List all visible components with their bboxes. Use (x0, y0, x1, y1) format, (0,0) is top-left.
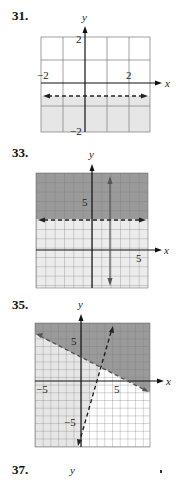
problem-33-number: 33. (12, 145, 28, 161)
graph-35-tick-x-right: 5 (114, 383, 120, 395)
graph-35-tick-y-top: 5 (71, 335, 77, 347)
problem-37-number: 37. (12, 462, 28, 478)
graph-31-y-label: y (81, 11, 87, 23)
graph-37-mark (160, 470, 162, 473)
graph-33-tick-x: 5 (136, 252, 142, 264)
graph-31-tick-x-left: −2 (37, 69, 49, 81)
graph-31-tick-y-bottom: −2 (70, 125, 82, 137)
problem-35-number: 35. (12, 297, 28, 313)
graph-37-y-label: y (70, 464, 75, 476)
graph-35-y-label: y (77, 298, 83, 310)
graph-31-x-label: x (164, 77, 170, 89)
graph-35-tick-y-bottom: −5 (64, 416, 76, 428)
graph-35-x-label: x (165, 375, 171, 387)
graph-35-tick-x-left: −5 (36, 383, 48, 395)
graph-31: y x 2 −2 2 −2 (0, 0, 176, 140)
graph-31-tick-y-top: 2 (76, 33, 82, 45)
graph-33-tick-y: 5 (82, 196, 88, 208)
graph-31-tick-x-right: 2 (126, 69, 132, 81)
graph-33-x-label: x (163, 244, 169, 256)
graph-33-y-label: y (88, 148, 94, 160)
